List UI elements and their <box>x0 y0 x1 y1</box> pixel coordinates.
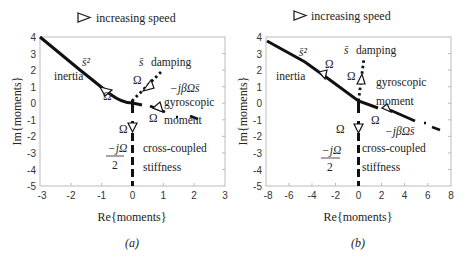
legend-label: increasing speed <box>96 11 176 25</box>
triangle-marker-icon <box>294 11 306 20</box>
svg-text:-1: -1 <box>97 190 106 201</box>
y-tick-labels: 4 3 2 1 0 -1 -2 -3 -4 -5 <box>253 32 262 192</box>
speed-marker-icon <box>153 102 163 112</box>
svg-text:0: 0 <box>130 190 136 201</box>
cross-term-denominator: 2 <box>327 161 333 173</box>
panel-b: 4 3 2 1 0 -1 -2 -3 -4 -5 -8 -6 -4 -2 0 2 <box>236 32 454 250</box>
svg-text:-5: -5 <box>27 181 36 192</box>
svg-text:-3: -3 <box>38 190 47 201</box>
cross-term-numerator: −jΩ <box>322 144 341 157</box>
svg-text:-6: -6 <box>285 190 294 201</box>
svg-text:-1: -1 <box>253 115 262 126</box>
svg-text:0: 0 <box>256 98 262 109</box>
svg-text:-2: -2 <box>27 131 36 142</box>
cross-label: cross-coupled <box>143 142 207 155</box>
panel-a: 4 3 2 1 0 -1 -2 -3 -4 -5 -3 -2 -1 0 1 2 … <box>10 32 228 250</box>
svg-text:4: 4 <box>30 32 36 43</box>
speed-marker-icon <box>128 123 137 132</box>
damping-label: damping <box>151 56 191 69</box>
x-axis-label: Re{moments} <box>98 210 167 224</box>
omega-label: Ω <box>133 74 142 86</box>
panel-caption: (a) <box>125 236 139 250</box>
omega-label: Ω <box>103 90 112 102</box>
svg-text:3: 3 <box>222 190 228 201</box>
omega-label: Ω <box>119 123 128 135</box>
x-tick-labels: -8 -6 -4 -2 0 2 4 6 8 <box>264 190 455 201</box>
inertia-term: s̄² <box>82 56 90 68</box>
svg-text:-4: -4 <box>253 165 262 176</box>
svg-text:3: 3 <box>256 49 262 60</box>
speed-marker-icon <box>354 124 363 133</box>
cross-label: cross-coupled <box>362 142 426 155</box>
svg-text:3: 3 <box>30 49 36 60</box>
svg-text:-4: -4 <box>27 165 36 176</box>
gyro-curve <box>390 110 415 121</box>
svg-text:-2: -2 <box>67 190 76 201</box>
svg-text:2: 2 <box>256 65 262 76</box>
svg-text:8: 8 <box>448 190 454 201</box>
svg-text:1: 1 <box>161 190 167 201</box>
gyro-label-2: moment <box>376 95 414 107</box>
svg-text:4: 4 <box>402 190 408 201</box>
omega-label: Ω <box>149 112 158 124</box>
legend-label: increasing speed <box>311 9 391 23</box>
svg-text:-4: -4 <box>308 190 317 201</box>
svg-text:1: 1 <box>30 82 36 93</box>
svg-text:1: 1 <box>256 82 262 93</box>
omega-label: Ω <box>325 58 334 70</box>
legend-a: increasing speed <box>78 11 176 25</box>
panel-caption: (b) <box>351 236 365 250</box>
svg-text:2: 2 <box>379 190 385 201</box>
gyro-label: gyroscopic <box>164 96 214 109</box>
gyro-label-2: moment <box>164 114 202 126</box>
gyro-label: gyroscopic <box>376 76 426 89</box>
inertia-label: inertia <box>54 70 83 82</box>
svg-text:0: 0 <box>356 190 362 201</box>
y-tick-labels: 4 3 2 1 0 -1 -2 -3 -4 -5 <box>27 32 36 192</box>
damping-term: s̄ <box>139 56 144 68</box>
omega-label: Ω <box>336 123 345 135</box>
x-tick-labels: -3 -2 -1 0 1 2 3 <box>38 190 229 201</box>
y-axis-label: Im{moments} <box>10 77 24 146</box>
svg-text:6: 6 <box>425 190 431 201</box>
svg-text:-5: -5 <box>253 181 262 192</box>
figure: increasing speed increasing speed 4 3 2 … <box>0 0 466 260</box>
x-axis-label: Re{moments} <box>324 210 393 224</box>
y-axis-label: Im{moments} <box>236 77 250 146</box>
legend-b: increasing speed <box>294 9 391 23</box>
svg-text:-1: -1 <box>27 115 36 126</box>
damping-label: damping <box>356 44 396 57</box>
svg-text:-8: -8 <box>264 190 273 201</box>
svg-text:0: 0 <box>30 98 36 109</box>
svg-text:2: 2 <box>30 65 36 76</box>
svg-text:2: 2 <box>191 190 197 201</box>
omega-label: Ω <box>347 70 356 82</box>
damping-term: s̄ <box>344 44 349 56</box>
gyro-term: −jβΩs̄ <box>170 82 200 95</box>
inertia-label: inertia <box>276 70 305 82</box>
cross-term-numerator: −jΩ <box>108 142 127 155</box>
cross-label-2: stiffness <box>362 161 401 173</box>
triangle-marker-icon <box>78 13 90 22</box>
svg-text:4: 4 <box>256 32 262 43</box>
cross-term-denominator: 2 <box>112 159 118 171</box>
svg-text:-2: -2 <box>331 190 340 201</box>
svg-text:-3: -3 <box>253 148 262 159</box>
svg-text:-2: -2 <box>253 131 262 142</box>
gyro-term: −jβΩs̄ <box>385 125 415 138</box>
speed-marker-icon <box>357 74 365 84</box>
gyro-curve-dashes <box>424 123 440 130</box>
inertia-term: s̄² <box>299 46 307 58</box>
cross-label-2: stiffness <box>143 161 182 173</box>
omega-label: Ω <box>371 114 380 126</box>
svg-text:-3: -3 <box>27 148 36 159</box>
